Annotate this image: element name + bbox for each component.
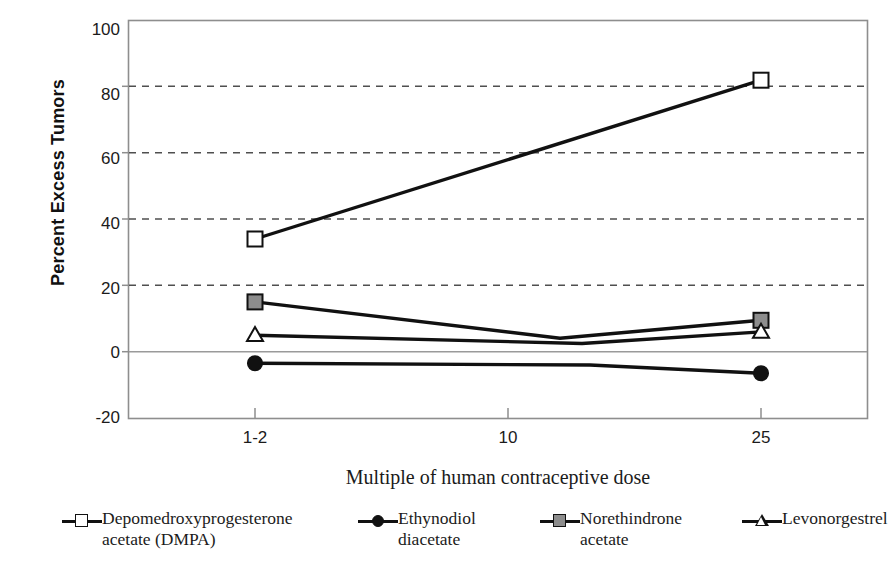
x-axis-title: Multiple of human contraceptive dose xyxy=(128,466,868,489)
series-norethindrone-line xyxy=(255,302,761,338)
legend-label-ethynodiol: Ethynodiol diacetate xyxy=(398,508,476,550)
series-dmpa-point-1 xyxy=(248,232,263,247)
legend-entry-norethindrone: Norethindrone acetate xyxy=(540,508,740,550)
filled-circle-marker-icon xyxy=(358,510,398,531)
series-ethynodiol-point-1 xyxy=(248,356,263,371)
legend-label-norethindrone-line2: acetate xyxy=(580,529,682,550)
open-square-marker-icon xyxy=(62,510,102,531)
x-tick-10: 10 xyxy=(499,428,518,448)
legend-entry-dmpa: Depomedroxyprogesterone acetate (DMPA) xyxy=(62,508,362,550)
legend-label-ethynodiol-line2: diacetate xyxy=(398,529,476,550)
chart-legend: Depomedroxyprogesterone acetate (DMPA) E… xyxy=(62,508,890,564)
series-norethindrone xyxy=(248,294,769,338)
series-ethynodiol-point-3 xyxy=(754,366,769,381)
legend-label-norethindrone-line1: Norethindrone xyxy=(580,508,682,528)
x-tick-1-2: 1-2 xyxy=(243,428,268,448)
series-ethynodiol-line xyxy=(255,363,761,373)
legend-entry-levonorgestrel: Levonorgestrel xyxy=(742,508,890,531)
series-ethynodiol xyxy=(248,356,769,381)
series-norethindrone-point-1 xyxy=(248,294,263,309)
gray-square-marker-icon xyxy=(540,510,580,531)
gridlines xyxy=(129,86,867,285)
legend-label-norethindrone: Norethindrone acetate xyxy=(580,508,682,550)
legend-label-dmpa-line2: acetate (DMPA) xyxy=(102,529,293,550)
plot-area xyxy=(0,0,890,460)
legend-label-levonorgestrel: Levonorgestrel xyxy=(782,508,888,529)
open-triangle-marker-icon xyxy=(742,510,782,531)
x-tick-25: 25 xyxy=(752,428,771,448)
x-tick-marks xyxy=(255,408,761,418)
legend-entry-ethynodiol: Ethynodiol diacetate xyxy=(358,508,533,550)
series-dmpa-point-3 xyxy=(754,73,769,88)
chart-figure: Percent Excess Tumors 100 80 60 40 20 0 … xyxy=(0,0,890,571)
series-dmpa-line xyxy=(255,80,761,239)
legend-label-ethynodiol-line1: Ethynodiol xyxy=(398,508,476,528)
legend-label-dmpa-line1: Depomedroxyprogesterone xyxy=(102,508,293,528)
legend-label-levonorgestrel-line1: Levonorgestrel xyxy=(782,508,888,528)
legend-label-dmpa: Depomedroxyprogesterone acetate (DMPA) xyxy=(102,508,293,550)
series-dmpa xyxy=(248,73,769,247)
